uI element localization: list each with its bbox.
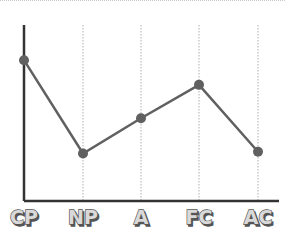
x-tick-label: FC — [186, 206, 213, 228]
x-tick-label: A — [134, 206, 149, 228]
data-point — [136, 113, 146, 123]
line-chart: CPCPNPNPAAFCFCACAC — [0, 0, 295, 244]
data-point — [78, 148, 88, 158]
x-tick-label: AC — [244, 206, 273, 228]
gridlines — [83, 25, 258, 201]
data-point — [19, 55, 29, 65]
x-tick-labels: CPCPNPNPAAFCFCACAC — [10, 206, 274, 230]
data-point — [194, 80, 204, 90]
data-point — [253, 147, 263, 157]
x-tick-label: CP — [10, 206, 38, 228]
x-tick-label: NP — [68, 206, 98, 228]
